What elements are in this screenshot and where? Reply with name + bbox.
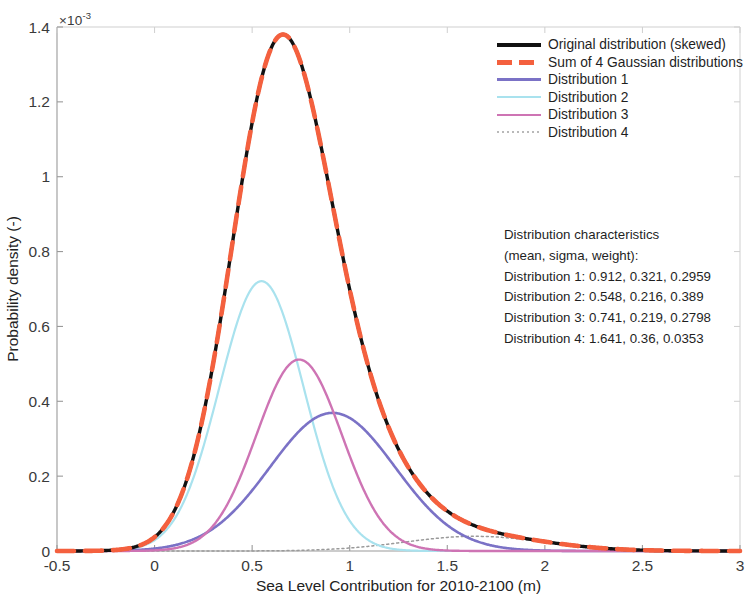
svg-text:0.6: 0.6 <box>28 318 50 335</box>
svg-text:1: 1 <box>41 168 50 185</box>
distribution-characteristics-annotation: Distribution characteristics (mean, sigm… <box>504 225 750 350</box>
legend-swatch-icon-original <box>497 38 541 52</box>
svg-text:-0.5: -0.5 <box>44 557 71 574</box>
x-axis-title: Sea Level Contribution for 2010-2100 (m) <box>256 577 541 594</box>
svg-text:1: 1 <box>345 557 354 574</box>
svg-text:0.4: 0.4 <box>28 393 50 410</box>
svg-text:0: 0 <box>150 557 159 574</box>
annotation-line-header: (mean, sigma, weight): <box>504 246 750 267</box>
annotation-line-distribution-4: Distribution 4: 1.641, 0.36, 0.0353 <box>504 329 750 350</box>
legend-swatch-icon-sum <box>497 55 541 69</box>
annotation-line-distribution-2: Distribution 2: 0.548, 0.216, 0.389 <box>504 287 750 308</box>
legend-item-distribution-4: Distribution 4 <box>497 124 749 142</box>
svg-text:2: 2 <box>541 557 550 574</box>
chart-legend: Original distribution (skewed) Sum of 4 … <box>497 36 749 141</box>
legend-item-original: Original distribution (skewed) <box>497 36 749 54</box>
legend-label-original: Original distribution (skewed) <box>548 36 726 54</box>
legend-label-distribution-4: Distribution 4 <box>548 124 629 142</box>
legend-label-sum: Sum of 4 Gaussian distributions <box>548 54 743 72</box>
curve-distribution-3 <box>57 360 740 551</box>
legend-item-distribution-1: Distribution 1 <box>497 71 749 89</box>
svg-text:0: 0 <box>41 543 50 560</box>
svg-text:1.4: 1.4 <box>28 19 50 36</box>
legend-item-distribution-3: Distribution 3 <box>497 106 749 124</box>
svg-text:1.2: 1.2 <box>28 93 50 110</box>
svg-text:0.5: 0.5 <box>241 557 263 574</box>
legend-label-distribution-3: Distribution 3 <box>548 106 629 124</box>
legend-label-distribution-1: Distribution 1 <box>548 71 629 89</box>
legend-swatch-icon-distribution-2 <box>497 90 541 104</box>
annotation-line-distribution-1: Distribution 1: 0.912, 0.321, 0.2959 <box>504 267 750 288</box>
y-axis-title: Probability density (-) <box>4 216 21 362</box>
svg-text:3: 3 <box>736 557 745 574</box>
svg-text:2.5: 2.5 <box>632 557 654 574</box>
legend-item-sum: Sum of 4 Gaussian distributions <box>497 54 749 72</box>
annotation-line-title: Distribution characteristics <box>504 225 750 246</box>
svg-text:1.5: 1.5 <box>437 557 459 574</box>
legend-label-distribution-2: Distribution 2 <box>548 89 629 107</box>
legend-swatch-icon-distribution-1 <box>497 73 541 87</box>
legend-swatch-icon-distribution-3 <box>497 108 541 122</box>
y-axis-exponent-label: ×10-3 <box>59 10 91 28</box>
legend-item-distribution-2: Distribution 2 <box>497 89 749 107</box>
svg-text:0.8: 0.8 <box>28 243 50 260</box>
svg-text:0.2: 0.2 <box>28 468 50 485</box>
annotation-line-distribution-3: Distribution 3: 0.741, 0.219, 0.2798 <box>504 308 750 329</box>
figure-canvas: -0.500.511.522.5300.20.40.60.811.21.4Sea… <box>0 0 754 595</box>
legend-swatch-icon-distribution-4 <box>497 125 541 139</box>
